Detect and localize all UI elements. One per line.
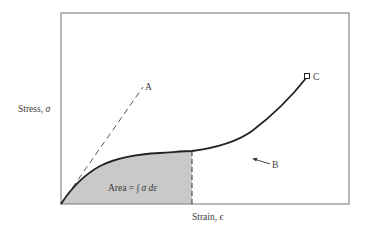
area-label: Area = ∫ σ dε	[108, 183, 157, 194]
point-b-arrowhead-icon	[252, 158, 258, 162]
y-axis-label: Stress, σ	[18, 104, 50, 114]
shaded-area	[61, 151, 192, 204]
x-axis-label-symbol: ϵ	[219, 212, 224, 222]
x-axis-label: Strain, ϵ	[192, 212, 224, 222]
area-label-integral: ∫ σ dε	[136, 183, 158, 194]
label-c: C	[313, 72, 319, 82]
y-axis-label-symbol: σ	[45, 104, 50, 114]
stress-strain-diagram: A B C Area = ∫ σ dε Stress, σ Strain, ϵ	[0, 0, 366, 231]
x-axis-label-text: Strain,	[192, 212, 219, 222]
label-a: A	[145, 82, 152, 92]
y-axis-label-text: Stress,	[18, 104, 45, 114]
area-label-prefix: Area =	[108, 183, 137, 193]
curve-endpoint-c-marker	[305, 74, 310, 79]
label-b: B	[272, 160, 278, 170]
